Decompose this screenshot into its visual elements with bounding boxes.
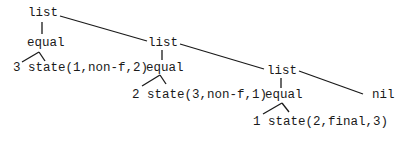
node-equal-1-children: 3 state(1,non-f,2) <box>13 62 148 75</box>
node-nil: nil <box>372 89 395 102</box>
node-equal-1: equal <box>27 37 65 50</box>
node-equal-2: equal <box>146 62 184 75</box>
node-equal-3-children: 1 state(2,final,3) <box>253 116 388 129</box>
edge-list3-to-nil <box>299 71 363 94</box>
edge-list2-to-list3 <box>180 44 264 69</box>
edge-equal2-to-state2 <box>160 75 166 84</box>
edge-root-to-list2 <box>60 16 147 41</box>
node-root-list: list <box>28 7 58 20</box>
node-list-3: list <box>267 65 297 78</box>
list-tree-diagram: list equal 3 state(1,non-f,2) list equal… <box>0 0 409 141</box>
node-equal-2-children: 2 state(3,non-f,1) <box>132 89 267 102</box>
edge-equal3-to-state3 <box>282 103 289 112</box>
node-equal-3: equal <box>265 89 303 102</box>
edge-equal3-to-1 <box>263 103 282 114</box>
edge-equal2-to-2 <box>142 75 160 86</box>
edge-equal1-to-state1 <box>39 52 45 61</box>
node-list-2: list <box>148 37 178 50</box>
